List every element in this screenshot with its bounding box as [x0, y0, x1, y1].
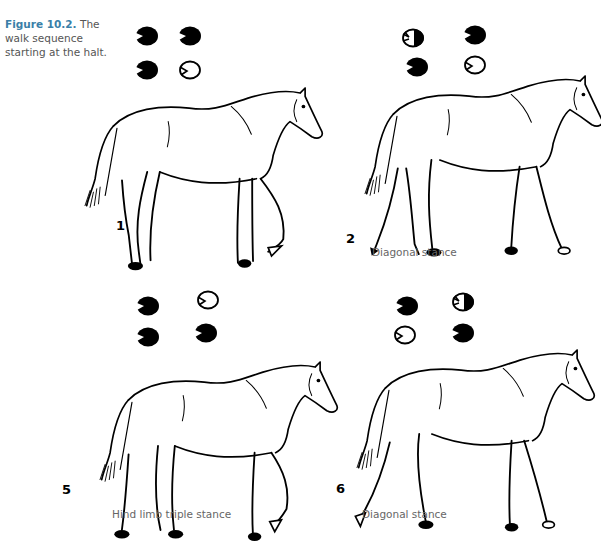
stance-label-5: Hind limb triple stance — [112, 508, 231, 520]
hoof-filled-icon — [396, 297, 418, 316]
hoof-half-icon — [403, 30, 424, 47]
footfall-diagram-5 — [137, 292, 218, 347]
hoof-filled-icon — [195, 324, 217, 343]
panel-number-2: 2 — [346, 231, 355, 246]
horse-drawing-1 — [85, 88, 322, 270]
hoof-outline-icon — [198, 292, 218, 309]
hoof-outline-icon — [180, 62, 200, 79]
walk-sequence-illustration: 1 — [0, 0, 601, 555]
panel-number-1: 1 — [116, 218, 125, 233]
hoof-outline-icon — [395, 327, 415, 344]
hoof-filled-icon — [137, 328, 159, 347]
stance-label-6: Diagonal stance — [362, 508, 447, 520]
hoof-filled-icon — [136, 61, 158, 80]
hoof-filled-icon — [136, 27, 158, 46]
hoof-filled-icon — [179, 27, 201, 46]
footfall-diagram-2 — [403, 26, 486, 77]
stance-label-2: Diagonal stance — [372, 246, 457, 258]
footfall-diagram-6 — [395, 294, 474, 344]
hoof-filled-icon — [464, 26, 486, 45]
footfall-diagram-1 — [136, 27, 201, 80]
panel-number-6: 6 — [336, 481, 345, 496]
panel-number-5: 5 — [62, 482, 71, 497]
horse-drawing-6 — [355, 350, 594, 531]
panel-6: 6 — [336, 294, 594, 532]
panel-2: 2 — [346, 26, 601, 257]
hoof-filled-icon — [452, 324, 474, 343]
horse-drawing-2 — [365, 76, 601, 257]
hoof-half-icon — [453, 294, 474, 311]
panel-1: 1 — [85, 27, 322, 271]
hoof-filled-icon — [137, 297, 159, 316]
hoof-outline-icon — [465, 57, 485, 74]
panel-5: 5 — [62, 292, 337, 541]
hoof-filled-icon — [406, 58, 428, 77]
